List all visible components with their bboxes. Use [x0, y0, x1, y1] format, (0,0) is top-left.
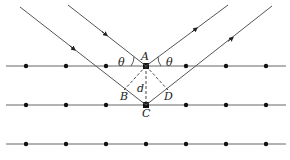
label-A: A — [140, 50, 149, 63]
dashed-AD — [146, 66, 168, 90]
label-D: D — [163, 90, 173, 103]
angle-arc-left — [131, 57, 134, 66]
label-theta-right: θ — [166, 56, 173, 69]
arrow-icon — [192, 29, 196, 32]
label-C: C — [142, 107, 151, 120]
label-B: B — [119, 90, 128, 103]
label-d: d — [137, 82, 144, 95]
arrow-icon — [70, 46, 74, 49]
bragg-diagram: A θ θ d B D C — [0, 0, 290, 160]
angle-arc-right — [158, 57, 161, 66]
arrow-icon — [102, 32, 106, 35]
label-theta-left: θ — [118, 56, 125, 69]
